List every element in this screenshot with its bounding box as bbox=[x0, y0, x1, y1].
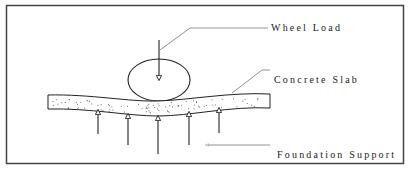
aggregate-speckle bbox=[89, 101, 90, 102]
aggregate-speckle bbox=[138, 104, 139, 105]
aggregate-speckle bbox=[78, 107, 79, 108]
aggregate-speckle bbox=[91, 104, 92, 105]
aggregate-speckle bbox=[215, 105, 216, 106]
aggregate-speckle bbox=[150, 113, 151, 114]
aggregate-speckle bbox=[111, 107, 112, 108]
aggregate-speckle bbox=[148, 107, 149, 108]
aggregate-speckle bbox=[108, 104, 109, 105]
aggregate-speckle bbox=[245, 99, 246, 100]
aggregate-speckle bbox=[84, 108, 85, 109]
aggregate-speckle bbox=[236, 106, 237, 107]
aggregate-speckle bbox=[53, 101, 54, 102]
wheel-load-label: Wheel Load bbox=[271, 22, 342, 33]
aggregate-speckle bbox=[76, 102, 77, 103]
concrete-slab-label: Concrete Slab bbox=[274, 74, 359, 85]
aggregate-speckle bbox=[254, 106, 255, 107]
aggregate-speckle bbox=[109, 105, 110, 106]
aggregate-speckle bbox=[69, 99, 70, 100]
aggregate-speckle bbox=[57, 104, 58, 105]
aggregate-speckle bbox=[146, 107, 147, 108]
aggregate-speckle bbox=[87, 100, 88, 101]
aggregate-speckle bbox=[77, 104, 78, 105]
aggregate-speckle bbox=[222, 99, 223, 100]
aggregate-speckle bbox=[168, 111, 169, 112]
aggregate-speckle bbox=[169, 105, 170, 106]
aggregate-speckle bbox=[194, 105, 195, 106]
aggregate-speckle bbox=[204, 106, 205, 107]
aggregate-speckle bbox=[142, 108, 143, 109]
aggregate-speckle bbox=[257, 98, 258, 99]
aggregate-speckle bbox=[146, 111, 147, 112]
aggregate-speckle bbox=[178, 106, 179, 107]
aggregate-speckle bbox=[149, 110, 150, 111]
aggregate-speckle bbox=[251, 105, 252, 106]
aggregate-speckle bbox=[146, 108, 147, 109]
aggregate-speckle bbox=[257, 99, 258, 100]
aggregate-speckle bbox=[186, 101, 187, 102]
aggregate-speckle bbox=[158, 104, 159, 105]
aggregate-speckle bbox=[199, 107, 200, 108]
aggregate-speckle bbox=[53, 105, 54, 106]
aggregate-speckle bbox=[194, 108, 195, 109]
aggregate-speckle bbox=[109, 109, 110, 110]
aggregate-speckle bbox=[212, 105, 213, 106]
aggregate-speckle bbox=[169, 112, 170, 113]
aggregate-speckle bbox=[112, 110, 113, 111]
aggregate-speckle bbox=[172, 107, 173, 108]
aggregate-speckle bbox=[159, 105, 160, 106]
aggregate-speckle bbox=[198, 106, 199, 107]
aggregate-speckle bbox=[171, 102, 172, 103]
aggregate-speckle bbox=[98, 105, 99, 106]
aggregate-speckle bbox=[147, 108, 148, 109]
aggregate-speckle bbox=[150, 112, 151, 113]
aggregate-speckle bbox=[101, 104, 102, 105]
aggregate-speckle bbox=[103, 110, 104, 111]
slab-diagram: Wheel Load Concrete Slab Foundation Supp… bbox=[0, 0, 409, 176]
foundation-support-label: Foundation Support bbox=[277, 149, 396, 160]
aggregate-speckle bbox=[109, 111, 110, 112]
aggregate-speckle bbox=[127, 106, 128, 107]
aggregate-speckle bbox=[247, 103, 248, 104]
aggregate-speckle bbox=[242, 101, 243, 102]
aggregate-speckle bbox=[56, 99, 57, 100]
aggregate-speckle bbox=[124, 112, 125, 113]
aggregate-speckle bbox=[148, 104, 149, 105]
concrete-slab-leader bbox=[232, 70, 270, 93]
aggregate-speckle bbox=[88, 110, 89, 111]
aggregate-speckle bbox=[68, 108, 69, 109]
aggregate-speckle bbox=[196, 101, 197, 102]
aggregate-speckle bbox=[61, 102, 62, 103]
aggregate-speckle bbox=[101, 109, 102, 110]
aggregate-speckle bbox=[70, 109, 71, 110]
aggregate-speckle bbox=[206, 105, 207, 106]
aggregate-speckle bbox=[196, 102, 197, 103]
aggregate-speckle bbox=[154, 107, 155, 108]
aggregate-speckle bbox=[233, 98, 234, 99]
aggregate-speckle bbox=[153, 105, 154, 106]
aggregate-speckle bbox=[193, 101, 194, 102]
wheel-load-leader bbox=[160, 28, 268, 50]
aggregate-speckle bbox=[165, 107, 166, 108]
aggregate-speckle bbox=[80, 102, 81, 103]
aggregate-speckle bbox=[181, 105, 182, 106]
aggregate-speckle bbox=[65, 102, 66, 103]
aggregate-speckle bbox=[147, 105, 148, 106]
aggregate-speckle bbox=[212, 100, 213, 101]
aggregate-speckle bbox=[157, 109, 158, 110]
aggregate-speckle bbox=[188, 108, 189, 109]
aggregate-speckle bbox=[77, 108, 78, 109]
aggregate-speckle bbox=[221, 107, 222, 108]
aggregate-speckle bbox=[87, 101, 88, 102]
aggregate-speckle bbox=[121, 106, 122, 107]
aggregate-speckle bbox=[159, 110, 160, 111]
